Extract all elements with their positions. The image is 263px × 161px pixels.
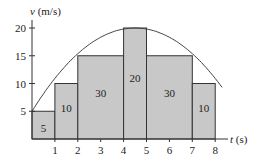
y-tick-label: 20 — [15, 22, 27, 34]
y-tick-label: 5 — [21, 105, 27, 117]
bar-area-label: 10 — [61, 102, 73, 114]
x-tick-label: 5 — [144, 144, 150, 156]
bar-area-label: 20 — [130, 72, 142, 84]
velocity-chart: 51030203010123456785101520v (m/s)t (s) — [0, 0, 263, 161]
x-tick-label: 8 — [212, 144, 218, 156]
y-tick-label: 15 — [15, 50, 27, 62]
x-tick-label: 2 — [75, 144, 81, 156]
bar-area-label: 30 — [95, 87, 107, 99]
x-tick-label: 4 — [121, 144, 127, 156]
bar-area-label: 30 — [164, 87, 176, 99]
bar-area-label: 5 — [41, 122, 47, 134]
x-axis-label: t (s) — [230, 133, 248, 146]
x-tick-label: 6 — [167, 144, 173, 156]
y-axis-label: v (m/s) — [30, 5, 61, 18]
y-tick-label: 10 — [15, 78, 27, 90]
x-tick-label: 1 — [52, 144, 58, 156]
x-tick-label: 7 — [190, 144, 196, 156]
x-tick-label: 3 — [98, 144, 104, 156]
bar-area-label: 10 — [198, 102, 210, 114]
